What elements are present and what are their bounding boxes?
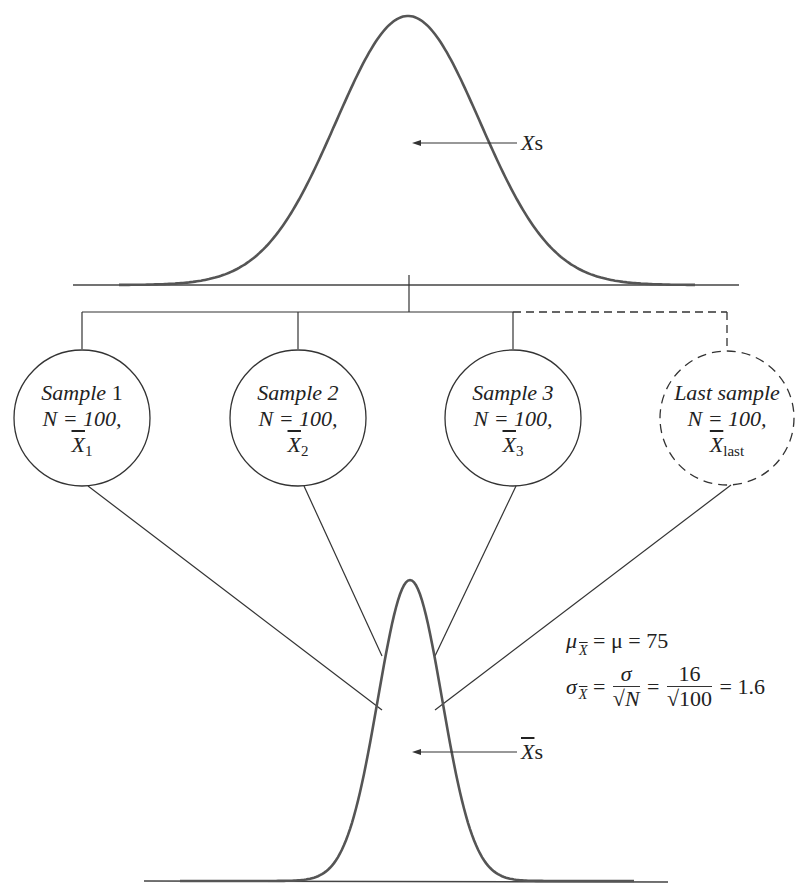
sample-last-label: Last sample N = 100, Xlast	[659, 380, 795, 458]
equals-2: =	[647, 674, 659, 699]
mu-subscript: X	[579, 643, 588, 658]
connector-sample-1	[88, 486, 382, 710]
sample-2-mean-sub: 2	[301, 443, 309, 459]
fraction-16-over-root-100: 16 √100	[667, 662, 712, 711]
sample-3-mean-sub: 3	[516, 443, 524, 459]
sample-3-label: Sample 3 N = 100, X3	[445, 380, 581, 458]
fraction-1-denominator: √N	[613, 687, 640, 711]
sample-1-name: Sample	[41, 380, 106, 405]
sample-2-n: N = 100,	[230, 406, 366, 432]
sample-last-n: N = 100,	[659, 406, 795, 432]
sample-1-label: Sample 1 N = 100, X1	[14, 380, 150, 458]
sample-3-mean-var: X	[503, 432, 516, 457]
sample-1-mean-sub: 1	[85, 443, 93, 459]
sample-2-name: Sample 2	[230, 380, 366, 406]
population-label: Xs	[521, 130, 543, 156]
fraction-2-numerator: 16	[667, 662, 712, 687]
fraction-2-denominator: √100	[667, 687, 712, 711]
sample-3-name: Sample 3	[445, 380, 581, 406]
sample-2-label: Sample 2 N = 100, X2	[230, 380, 366, 458]
population-arrowhead-icon	[412, 140, 421, 146]
mean-formula: μX = μ = 75	[566, 628, 668, 659]
sample-1-n: N = 100,	[14, 406, 150, 432]
fraction-sigma-over-root-n: σ √N	[613, 662, 640, 711]
sample-last-mean-sub: last	[723, 443, 744, 459]
connector-sample-3	[435, 486, 516, 656]
population-label-suffix: s	[534, 130, 543, 155]
population-distribution-curve	[119, 16, 695, 285]
fraction-1-numerator: σ	[613, 662, 640, 687]
standard-error-formula: σX = σ √N = 16 √100 = 1.6	[566, 662, 765, 711]
sample-3-n: N = 100,	[445, 406, 581, 432]
sample-last-name: Last sample	[659, 380, 795, 406]
sampling-distribution-curve	[180, 580, 634, 881]
sample-last-mean-var: X	[710, 432, 723, 457]
connector-sample-2	[304, 486, 382, 656]
mu-symbol: μ	[566, 628, 577, 653]
sigma-subscript: X	[579, 687, 588, 702]
sample-1-number: 1	[106, 380, 123, 405]
sample-2-mean-var: X	[288, 432, 301, 457]
sampling-label-suffix: s	[534, 739, 543, 764]
sampling-distribution-label: Xs	[521, 739, 543, 765]
sample-1-mean-var: X	[72, 432, 85, 457]
mu-equation: = μ = 75	[593, 628, 668, 653]
population-label-var: X	[521, 130, 534, 155]
sampling-arrowhead-icon	[412, 749, 421, 755]
result: = 1.6	[720, 674, 765, 699]
sampling-label-var: X	[521, 739, 534, 764]
sigma-symbol: σ	[566, 674, 577, 699]
equals-1: =	[593, 674, 605, 699]
